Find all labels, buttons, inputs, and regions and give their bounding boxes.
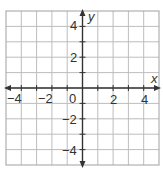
x-tick-label-neg4: −4 xyxy=(7,91,22,106)
x-axis-label: x xyxy=(150,71,158,86)
x-tick-label-4: 4 xyxy=(141,92,148,107)
y-tick-label-neg2: −2 xyxy=(62,112,77,127)
y-tick-label-4: 4 xyxy=(70,18,77,33)
y-tick-label-2: 2 xyxy=(70,50,77,65)
y-axis-up-arrow-icon xyxy=(80,9,86,16)
origin-label: 0 xyxy=(69,91,76,106)
x-tick-label-neg2: −2 xyxy=(38,91,53,106)
y-tick-label-neg4: −4 xyxy=(62,143,77,158)
x-tick-label-2: 2 xyxy=(110,92,117,107)
coordinate-plane: x y −4 −2 0 2 4 4 2 −2 −4 xyxy=(0,0,163,179)
